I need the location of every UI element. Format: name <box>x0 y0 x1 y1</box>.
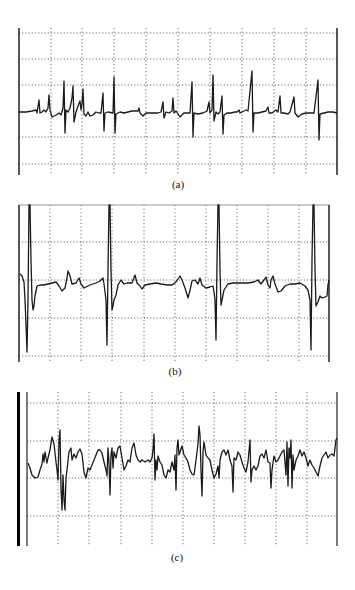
caption-c: (c) <box>157 551 197 563</box>
waveform-panels <box>0 0 355 590</box>
thick-left-bar <box>17 392 20 546</box>
panel-b <box>19 205 329 362</box>
caption-a: (a) <box>158 178 198 190</box>
ecg-figure: (a) (b) (c) <box>0 0 355 590</box>
panel-c <box>17 392 337 546</box>
panel-a <box>19 28 337 175</box>
caption-b: (b) <box>155 365 195 377</box>
